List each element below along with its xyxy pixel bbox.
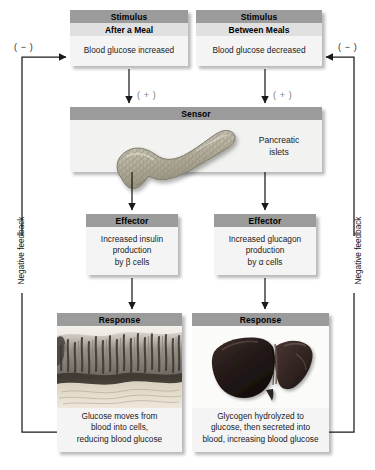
intestinal-villi-micrograph (57, 326, 182, 408)
response-left-caption: Glucose moves from blood into cells, red… (57, 408, 182, 452)
minus-sign-right: ( − ) (338, 42, 357, 52)
response-right-caption-line-1: Glycogen hydrolyzed to (194, 411, 327, 422)
effector-right-header: Effector (214, 214, 316, 227)
effector-left-body: Increased insulin production by β cells (86, 227, 178, 275)
stimulus-box-left: Stimulus After a Meal Blood glucose incr… (70, 10, 188, 66)
effector-box-left: Effector Increased insulin production by… (86, 214, 178, 275)
stimulus-left-header: Stimulus (70, 10, 188, 23)
response-right-caption-line-3: blood, increasing blood glucose (194, 434, 327, 445)
response-right-caption-line-2: glucose, then secreted into (194, 422, 327, 433)
islets-label-line-1: Pancreatic (246, 135, 312, 147)
liver-illustration (192, 326, 329, 408)
negative-feedback-label-left: Negative feedback (17, 207, 26, 295)
stimulus-right-body: Blood glucose decreased (196, 36, 322, 66)
negative-feedback-label-right: Negative feedback (354, 207, 363, 295)
minus-sign-left: ( − ) (14, 42, 33, 52)
effector-right-line-1: Increased glucagon (229, 234, 301, 246)
effector-left-header: Effector (86, 214, 178, 227)
pancreas-illustration (96, 117, 244, 197)
effector-left-line-1: Increased insulin (101, 234, 163, 246)
plus-sign-left: ( + ) (137, 90, 156, 100)
response-left-caption-line-2: blood into cells, (59, 422, 180, 433)
stimulus-right-header: Stimulus (196, 10, 322, 23)
response-left-caption-line-3: reducing blood glucose (59, 434, 180, 445)
pancreatic-islets-label: Pancreatic islets (246, 135, 312, 158)
stimulus-right-subheader: Between Meals (196, 23, 322, 36)
effector-left-line-2: production (113, 245, 152, 257)
effector-right-body: Increased glucagon production by α cells (214, 227, 316, 275)
effector-right-line-3: by α cells (248, 257, 283, 269)
stimulus-left-body: Blood glucose increased (70, 36, 188, 66)
stimulus-left-subheader: After a Meal (70, 23, 188, 36)
response-right-header: Response (192, 313, 329, 326)
response-left-caption-line-1: Glucose moves from (59, 411, 180, 422)
response-box-left: Response (57, 313, 182, 452)
diagram-canvas: Stimulus After a Meal Blood glucose incr… (0, 0, 375, 470)
plus-sign-right: ( + ) (273, 90, 292, 100)
effector-left-line-3: by β cells (115, 257, 150, 269)
islets-label-line-2: islets (246, 147, 312, 159)
effector-right-line-2: production (246, 245, 285, 257)
stimulus-box-right: Stimulus Between Meals Blood glucose dec… (196, 10, 322, 66)
response-box-right: Response (192, 313, 329, 452)
response-left-header: Response (57, 313, 182, 326)
effector-box-right: Effector Increased glucagon production b… (214, 214, 316, 275)
response-right-caption: Glycogen hydrolyzed to glucose, then sec… (192, 408, 329, 452)
